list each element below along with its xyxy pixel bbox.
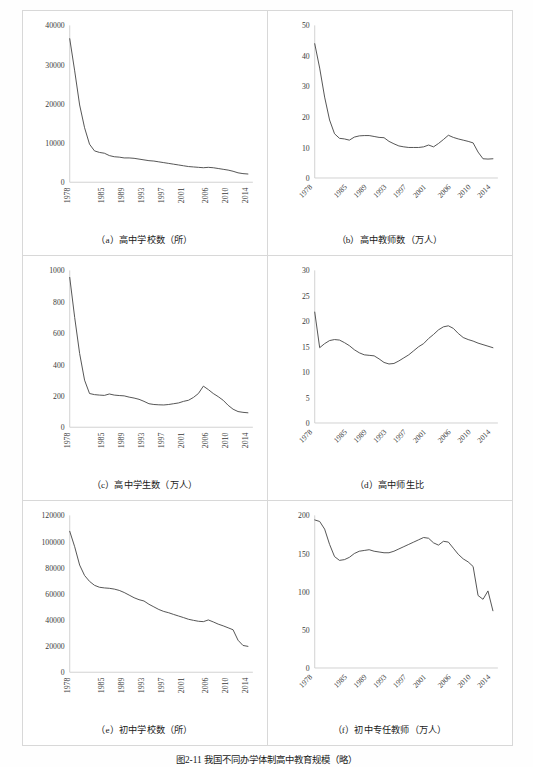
x-tick-label: 1993 <box>137 187 146 203</box>
y-tick-label: 30000 <box>45 60 64 69</box>
panel-b: 0102030405019781985198919931997200120062… <box>267 10 513 256</box>
y-tick-label: 400 <box>53 360 65 369</box>
x-tick-label: 1978 <box>62 187 71 203</box>
x-tick-label: 1993 <box>371 672 388 690</box>
x-tick-label: 1985 <box>97 677 106 693</box>
y-tick-label: 1000 <box>49 266 64 275</box>
y-tick-label: 10 <box>301 368 309 377</box>
figure-page: 0100002000030000400001978198519891993199… <box>0 0 533 767</box>
y-tick-label: 60000 <box>45 589 64 598</box>
x-tick-label: 1993 <box>137 432 146 448</box>
x-tick-label: 1993 <box>137 677 146 693</box>
x-tick-label: 1978 <box>62 677 71 693</box>
x-tick-label: 1993 <box>371 427 388 445</box>
x-tick-label: 1997 <box>156 432 165 448</box>
panel-e: 0200004000060000800001000001200001978198… <box>22 500 268 746</box>
panel-caption-f: （f）初中专任教师（万人） <box>268 721 512 745</box>
y-tick-label: 0 <box>305 418 309 427</box>
panel-caption-e: （e）初中学校数（所） <box>23 721 267 745</box>
y-tick-label: 100 <box>298 587 310 596</box>
y-tick-label: 100000 <box>41 537 64 546</box>
x-tick-label: 2001 <box>411 182 428 200</box>
y-tick-label: 80000 <box>45 563 64 572</box>
x-tick-label: 1997 <box>391 672 408 690</box>
panel-f: 0501001502001978198519891993199720012006… <box>267 500 513 746</box>
y-tick-label: 800 <box>53 297 65 306</box>
y-tick-label: 20000 <box>45 99 64 108</box>
x-tick-label: 2001 <box>411 672 428 690</box>
plot-area-a: 0100002000030000400001978198519891993199… <box>27 19 261 231</box>
y-tick-label: 10000 <box>45 138 64 147</box>
panel-caption-d: （d）高中师生比 <box>268 476 512 500</box>
x-tick-label: 1985 <box>331 182 348 200</box>
plot-area-b: 0102030405019781985198919931997200120062… <box>272 19 506 231</box>
x-tick-label: 1985 <box>331 672 348 690</box>
x-tick-label: 1989 <box>351 672 368 690</box>
y-tick-label: 30 <box>301 82 309 91</box>
y-tick-label: 25 <box>301 291 309 300</box>
y-tick-label: 20 <box>301 112 309 121</box>
plot-area-f: 0501001502001978198519891993199720012006… <box>272 509 506 721</box>
y-tick-label: 200 <box>298 511 310 520</box>
x-tick-label: 1989 <box>117 432 126 448</box>
x-tick-label: 2014 <box>241 432 250 448</box>
y-tick-label: 40000 <box>45 615 64 624</box>
y-tick-label: 40000 <box>45 21 64 30</box>
y-tick-label: 50 <box>301 21 309 30</box>
x-tick-label: 1978 <box>297 672 314 690</box>
panel-caption-a: （a）高中学校数（所） <box>23 231 267 255</box>
series-line <box>314 519 492 610</box>
panel-a: 0100002000030000400001978198519891993199… <box>22 10 268 256</box>
x-tick-label: 2010 <box>455 427 472 445</box>
series-line <box>314 43 492 158</box>
x-tick-label: 2014 <box>475 182 492 200</box>
chart-a: 0100002000030000400001978198519891993199… <box>27 19 261 231</box>
x-tick-label: 1985 <box>331 427 348 445</box>
panel-c: 0200400600800100019781985198919931997200… <box>22 255 268 501</box>
x-tick-label: 2010 <box>455 672 472 690</box>
x-tick-label: 2001 <box>176 187 185 203</box>
series-line <box>69 38 247 173</box>
x-tick-label: 2001 <box>176 677 185 693</box>
x-tick-label: 2014 <box>241 187 250 203</box>
y-tick-label: 0 <box>60 178 64 187</box>
x-tick-label: 1989 <box>351 427 368 445</box>
chart-f: 0501001502001978198519891993199720012006… <box>272 509 506 721</box>
y-tick-label: 15 <box>301 342 309 351</box>
y-tick-label: 0 <box>305 173 309 182</box>
x-tick-label: 1978 <box>297 182 314 200</box>
y-tick-label: 40 <box>301 51 309 60</box>
chart-b: 0102030405019781985198919931997200120062… <box>272 19 506 231</box>
plot-area-e: 0200004000060000800001000001200001978198… <box>27 509 261 721</box>
y-tick-label: 30 <box>301 266 309 275</box>
x-tick-label: 2001 <box>411 427 428 445</box>
x-tick-label: 2006 <box>201 187 210 203</box>
x-tick-label: 1989 <box>117 677 126 693</box>
x-tick-label: 1997 <box>156 187 165 203</box>
plot-area-c: 0200400600800100019781985198919931997200… <box>27 264 261 476</box>
y-tick-label: 20 <box>301 317 309 326</box>
y-tick-label: 10 <box>301 143 309 152</box>
x-tick-label: 2006 <box>435 672 452 690</box>
y-tick-label: 600 <box>53 329 65 338</box>
x-tick-label: 2014 <box>241 677 250 693</box>
x-tick-label: 2010 <box>455 182 472 200</box>
x-tick-label: 2006 <box>201 677 210 693</box>
x-tick-label: 1993 <box>371 182 388 200</box>
panel-caption-c: （c）高中学生数（万人） <box>23 476 267 500</box>
y-tick-label: 50 <box>301 625 309 634</box>
y-tick-label: 120000 <box>41 511 64 520</box>
y-tick-label: 20000 <box>45 642 64 651</box>
y-tick-label: 200 <box>53 391 65 400</box>
y-tick-label: 0 <box>60 668 64 677</box>
x-tick-label: 1989 <box>351 182 368 200</box>
x-tick-label: 2010 <box>221 187 230 203</box>
x-tick-label: 1985 <box>97 187 106 203</box>
panel-caption-b: （b）高中教师数（万人） <box>268 231 512 255</box>
panel-grid: 0100002000030000400001978198519891993199… <box>22 10 512 745</box>
x-tick-label: 2010 <box>221 677 230 693</box>
series-line <box>314 312 492 364</box>
x-tick-label: 2006 <box>201 432 210 448</box>
y-tick-label: 150 <box>298 549 310 558</box>
x-tick-label: 1978 <box>62 432 71 448</box>
